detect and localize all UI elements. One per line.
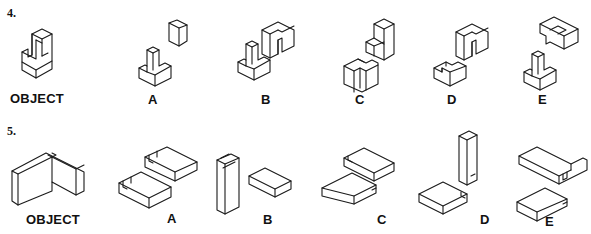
problem-5-option-b-figure	[215, 152, 297, 222]
problem-4-option-e-figure	[520, 12, 590, 92]
problem-5-option-c-label: C	[377, 212, 387, 227]
problem-4-option-d-figure	[430, 16, 500, 91]
problem-5-option-a-figure	[115, 145, 205, 220]
problem-4-option-a-label: A	[148, 92, 158, 107]
problem-4-option-d-label: D	[447, 92, 457, 107]
problem-5-object-figure	[10, 147, 90, 205]
problem-5-number: 5.	[7, 124, 16, 139]
problem-5-option-d-label: D	[480, 212, 490, 227]
problem-5-option-a-label: A	[167, 211, 177, 226]
problem-4-option-c-figure	[338, 14, 408, 94]
problem-5-option-e-label: E	[545, 214, 554, 229]
problem-4-object-label: OBJECT	[10, 91, 64, 106]
problem-4-option-b-label: B	[261, 92, 271, 107]
problem-4-object-figure	[10, 28, 60, 86]
problem-4-option-a-figure	[135, 20, 195, 90]
problem-4-option-b-figure	[232, 20, 302, 90]
problem-4-option-e-label: E	[538, 92, 547, 107]
problem-4-number: 4.	[7, 6, 16, 21]
problem-5-option-d-figure	[415, 128, 505, 218]
problem-5-option-c-figure	[318, 140, 408, 220]
problem-4-option-c-label: C	[355, 92, 365, 107]
problem-5-object-label: OBJECT	[26, 212, 80, 227]
problem-5-option-b-label: B	[263, 212, 273, 227]
